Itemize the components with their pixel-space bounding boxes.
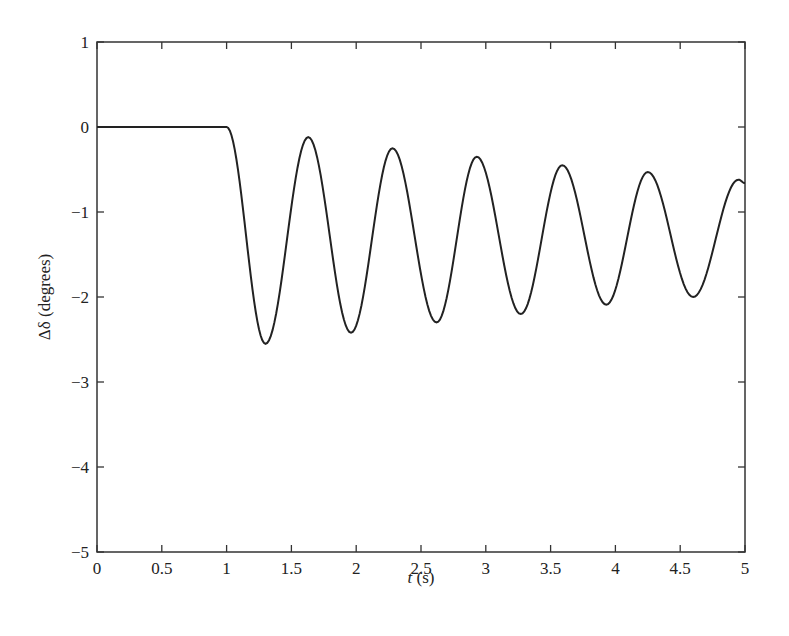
x-tick-label: 1 <box>222 559 231 578</box>
y-tick-label: 0 <box>81 118 90 137</box>
x-axis-unit: (s) <box>412 568 434 587</box>
y-axis-label: Δδ (degrees) <box>35 254 54 340</box>
x-axis-label: t (s) <box>408 568 435 587</box>
x-tick-label: 0 <box>93 559 102 578</box>
x-tick-label: 1.5 <box>281 559 302 578</box>
y-axis-ticks <box>97 42 745 552</box>
x-tick-label: 3 <box>482 559 491 578</box>
y-tick-label: −1 <box>71 203 89 222</box>
x-tick-label: 4.5 <box>670 559 691 578</box>
plot-area <box>97 42 745 552</box>
data-line <box>97 127 745 344</box>
x-tick-label: 0.5 <box>151 559 172 578</box>
y-tick-label: −5 <box>71 543 89 562</box>
y-tick-label: −2 <box>71 288 89 307</box>
y-tick-label: −4 <box>71 458 90 477</box>
y-tick-label: −3 <box>71 373 89 392</box>
y-axis-tick-labels: 10−1−2−3−4−5 <box>71 33 90 562</box>
x-tick-label: 2 <box>352 559 361 578</box>
x-axis-ticks <box>97 42 745 552</box>
y-tick-label: 1 <box>81 33 90 52</box>
chart: 00.511.522.533.544.55 10−1−2−3−4−5 t (s)… <box>0 0 789 636</box>
x-tick-label: 4 <box>611 559 620 578</box>
x-tick-label: 3.5 <box>540 559 561 578</box>
x-tick-label: 5 <box>741 559 750 578</box>
